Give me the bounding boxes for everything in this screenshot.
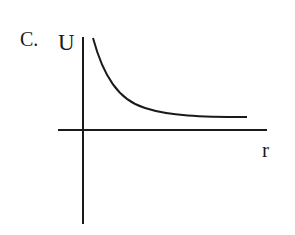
y-axis-label: U xyxy=(58,30,75,56)
potential-curve xyxy=(93,38,247,117)
potential-energy-graph xyxy=(0,0,295,235)
option-label: C. xyxy=(20,28,38,51)
x-axis-label: r xyxy=(262,138,269,163)
